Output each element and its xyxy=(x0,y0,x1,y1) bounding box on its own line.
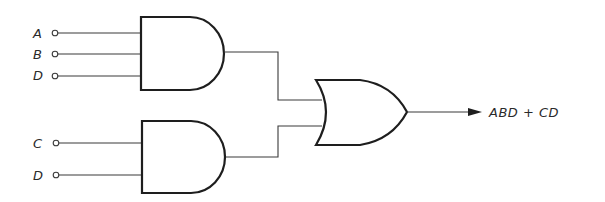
input-terminal-c xyxy=(53,140,59,146)
input-label-b: B xyxy=(33,47,42,62)
input-label-d2: D xyxy=(33,168,43,183)
input-terminal-b xyxy=(52,51,58,57)
arrow-right-icon xyxy=(468,108,482,116)
and1-input-wires xyxy=(52,30,141,79)
or-gate xyxy=(316,80,407,145)
and2-input-wires xyxy=(53,140,142,178)
input-label-c: C xyxy=(33,136,43,151)
input-terminal-d2 xyxy=(53,172,59,178)
logic-circuit-diagram: A B D C D ABD + CD xyxy=(0,0,605,202)
input-label-d: D xyxy=(33,68,43,83)
and-gate-2 xyxy=(142,121,225,193)
output-expression: ABD + CD xyxy=(488,105,559,120)
and2-to-or-wire xyxy=(226,126,322,157)
input-terminal-a xyxy=(52,30,58,36)
input-label-a: A xyxy=(32,26,42,41)
input-terminal-d xyxy=(52,73,58,79)
and-gate-1 xyxy=(141,17,224,90)
and1-to-or-wire xyxy=(224,52,322,100)
